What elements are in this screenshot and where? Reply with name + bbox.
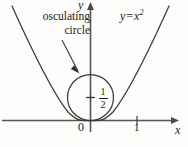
y-axis-label: y	[78, 0, 83, 12]
circle-center-marker	[87, 94, 94, 101]
equation-exponent: 2	[139, 8, 143, 17]
equation-equals-sign: =	[125, 9, 134, 23]
x-axis-label: x	[175, 124, 180, 137]
x-tick-label-1: 1	[134, 122, 140, 134]
osculating-circle-annotation: osculating circle	[14, 9, 90, 37]
osculating-circle-figure: osculating circle y=x2 y x 0 1 1 2	[0, 0, 188, 147]
annotation-line-2: circle	[14, 23, 90, 37]
curve-equation-label: y=x2	[120, 9, 143, 23]
radius-fraction-label: 1 2	[96, 87, 110, 110]
fraction-denominator: 2	[96, 100, 110, 110]
fraction-numerator: 1	[96, 87, 110, 97]
origin-label: 0	[78, 121, 84, 134]
annotation-leader	[62, 40, 80, 74]
annotation-leader-line	[62, 40, 78, 71]
